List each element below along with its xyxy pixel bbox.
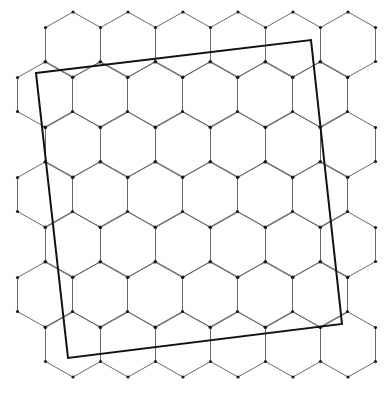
lattice-vertex-dot [319, 360, 322, 363]
lattice-vertex-dot [236, 10, 239, 13]
lattice-vertex-dot [181, 76, 184, 79]
lattice-vertex-dot [43, 260, 46, 263]
lattice-vertex-dot [263, 60, 266, 63]
lattice-vertex-dot [374, 326, 377, 329]
lattice-vertex-dot [71, 110, 74, 113]
lattice-vertex-dot [153, 260, 156, 263]
lattice-vertex-dot [319, 26, 322, 29]
rotated-square-outline [36, 40, 342, 358]
lattice-vertex-dot [374, 26, 377, 29]
lattice-vertex-dot [44, 326, 47, 329]
lattice-vertex-dot [291, 276, 294, 279]
hex-lattice-diagram [0, 0, 384, 394]
lattice-vertex-dot [98, 60, 101, 63]
lattice-vertex-dot [181, 110, 184, 113]
lattice-vertex-dot [236, 375, 239, 378]
lattice-vertex-dot [236, 276, 239, 279]
lattice-vertex-dot [318, 60, 321, 63]
lattice-vertex-dot [154, 360, 157, 363]
lattice-vertex-dot [126, 176, 129, 179]
lattice-vertex-dot [154, 226, 157, 229]
lattice-vertex-dot [236, 210, 239, 213]
lattice-vertex-dot [71, 10, 74, 13]
lattice-vertex-dot [71, 210, 74, 213]
lattice-vertex-dot [264, 226, 267, 229]
lattice-vertex-dot [16, 310, 19, 313]
lattice-vertex-dot [291, 110, 294, 113]
lattice-vertex-dot [71, 176, 74, 179]
lattice-vertex-dot [181, 310, 184, 313]
lattice-vertex-dot [236, 76, 239, 79]
lattice-vertex-dot [318, 160, 321, 163]
lattice-vertex-dot [99, 26, 102, 29]
lattice-vertex-dot [181, 375, 184, 378]
lattice-vertex-dot [71, 276, 74, 279]
lattice-vertex-dot [346, 10, 349, 13]
lattice-vertex-dot [374, 360, 377, 363]
lattice-vertex-dot [126, 310, 129, 313]
lattice-vertex-dot [291, 10, 294, 13]
lattice-vertex-dot [181, 10, 184, 13]
lattice-vertex-dot [346, 176, 349, 179]
lattice-vertex-dot [264, 360, 267, 363]
lattice-vertex-dot [374, 126, 377, 129]
lattice-vertex-dot [263, 260, 266, 263]
lattice-vertex-dot [44, 126, 47, 129]
lattice-vertex-dot [44, 360, 47, 363]
lattice-vertex-dot [98, 160, 101, 163]
lattice-vertex-dot [264, 26, 267, 29]
lattice-vertex-dot [346, 375, 349, 378]
lattice-vertex-dot [236, 310, 239, 313]
lattice-vertex-dot [291, 375, 294, 378]
lattice-vertex-dot [291, 76, 294, 79]
lattice-vertex-dot [264, 326, 267, 329]
lattice-vertex-dot [16, 176, 19, 179]
hex-grid-vertices [16, 10, 377, 378]
lattice-vertex-dot [208, 160, 211, 163]
lattice-vertex-dot [99, 326, 102, 329]
lattice-vertex-dot [153, 60, 156, 63]
lattice-vertex-dot [236, 176, 239, 179]
lattice-vertex-dot [71, 76, 74, 79]
lattice-vertex-dot [374, 226, 377, 229]
lattice-vertex-dot [346, 76, 349, 79]
lattice-vertex-dot [318, 260, 321, 263]
lattice-vertex-dot [236, 110, 239, 113]
lattice-vertex-dot [291, 210, 294, 213]
lattice-vertex-dot [153, 160, 156, 163]
lattice-vertex-dot [126, 276, 129, 279]
lattice-vertex-dot [16, 110, 19, 113]
lattice-vertex-dot [346, 276, 349, 279]
lattice-vertex-dot [98, 260, 101, 263]
lattice-vertex-dot [346, 210, 349, 213]
lattice-vertex-dot [154, 126, 157, 129]
lattice-vertex-dot [99, 360, 102, 363]
lattice-vertex-dot [71, 310, 74, 313]
lattice-vertex-dot [43, 60, 46, 63]
lattice-vertex-dot [374, 260, 377, 263]
lattice-vertex-dot [208, 260, 211, 263]
lattice-vertex-dot [346, 110, 349, 113]
lattice-vertex-dot [319, 226, 322, 229]
lattice-vertex-dot [99, 126, 102, 129]
lattice-vertex-dot [99, 226, 102, 229]
lattice-vertex-dot [126, 110, 129, 113]
lattice-vertex-dot [209, 360, 212, 363]
lattice-vertex-dot [264, 126, 267, 129]
lattice-vertex-dot [209, 126, 212, 129]
hex-grid-edges [18, 12, 376, 377]
lattice-vertex-dot [181, 176, 184, 179]
lattice-vertex-dot [126, 10, 129, 13]
lattice-vertex-dot [209, 326, 212, 329]
lattice-vertex-dot [16, 76, 19, 79]
lattice-vertex-dot [291, 310, 294, 313]
lattice-vertex-dot [209, 226, 212, 229]
lattice-vertex-dot [126, 76, 129, 79]
lattice-vertex-dot [16, 210, 19, 213]
lattice-vertex-dot [209, 26, 212, 29]
lattice-vertex-dot [154, 326, 157, 329]
lattice-vertex-dot [44, 226, 47, 229]
lattice-vertex-dot [374, 160, 377, 163]
lattice-vertex-dot [181, 210, 184, 213]
lattice-vertex-dot [181, 276, 184, 279]
